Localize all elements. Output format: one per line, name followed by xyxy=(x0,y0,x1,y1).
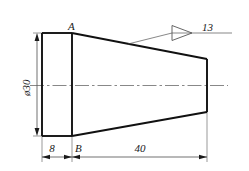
collar-length-text: 8 xyxy=(49,142,55,154)
label-point-b: B xyxy=(75,142,82,154)
surface-finish-value-text: 13 xyxy=(202,21,214,33)
diameter-dimension: ø30 xyxy=(20,33,39,136)
label-point-a: A xyxy=(67,20,75,32)
taper-length-dimension: 40 xyxy=(72,142,207,159)
diameter-arrow-bottom xyxy=(35,128,40,136)
part-outline-group xyxy=(42,33,207,136)
taper-length-text: 40 xyxy=(135,142,147,154)
drawing-svg: ø30 13 xyxy=(0,0,249,171)
collar-arrow-right xyxy=(64,155,72,159)
collar-length-dimension: 8 xyxy=(42,142,72,159)
surface-finish-annotation: 13 xyxy=(128,21,232,44)
taper-arrow-left xyxy=(72,155,80,159)
diameter-dimension-text: ø30 xyxy=(20,79,32,97)
outline-taper-bottom xyxy=(72,112,207,136)
technical-drawing-canvas: ø30 13 xyxy=(0,0,249,171)
surface-finish-leader xyxy=(128,33,172,44)
extension-lines-group xyxy=(33,33,207,162)
outline-taper-top xyxy=(72,33,207,59)
collar-arrow-left xyxy=(42,155,50,159)
taper-arrow-right xyxy=(199,155,207,159)
diameter-arrow-top xyxy=(35,33,40,41)
